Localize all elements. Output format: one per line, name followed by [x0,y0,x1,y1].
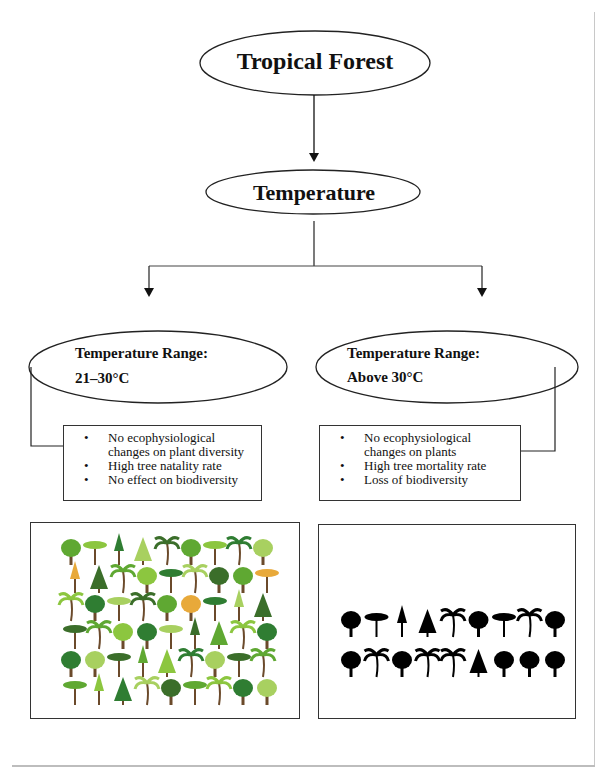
tree-icon [231,622,255,649]
tree-icon [114,533,124,565]
tree-icon [470,649,488,677]
tree-icon [494,651,514,677]
tree-icon [205,651,225,677]
tree-icon [70,561,80,593]
tree-icon [134,537,152,565]
tree-icon [87,622,111,649]
tree-icon [61,539,81,565]
tree-icon [257,623,277,649]
arrowhead-icon [309,153,319,162]
range-heading-right: Temperature Range: [347,345,480,362]
tree-icon [341,651,361,677]
tree-icon [469,611,489,637]
tree-icon [227,538,251,565]
tree-icon [227,653,251,677]
colorful-tree-collection-icon [31,523,299,718]
tree-icon [85,651,105,677]
effect-item: No effect on biodiversity [108,473,255,487]
tree-icon [365,650,389,677]
tree-icon [63,681,87,705]
effects-box-left: No ecophysiological changes on plant div… [63,425,262,501]
tree-icon [234,589,244,621]
tree-icon [545,651,565,677]
tree-icon [181,595,201,621]
tree-icon [233,679,253,705]
effects-list-right: No ecophysiological changes on plants Hi… [326,431,514,487]
tree-icon [397,605,407,637]
tree-icon [83,541,107,565]
tree-icon [158,649,176,677]
tree-icon [94,673,104,705]
tree-icon [63,625,87,649]
tree-icon [520,651,540,677]
tree-icon [161,679,181,705]
tree-icon [210,621,228,649]
dead-forest-illustration [318,524,576,719]
range-heading-left: Temperature Range: [75,345,208,362]
range-ellipse-right [316,331,578,403]
effect-item: High tree mortality rate [364,459,514,473]
tree-icon [253,539,273,565]
tree-icon [416,650,440,677]
tree-icon [183,566,207,593]
tree-icon [107,597,131,621]
tree-icon [114,677,132,705]
tree-icon [255,569,279,593]
tree-icon [207,678,231,705]
tree-icon [341,611,361,637]
tree-icon [59,594,83,621]
tree-icon [257,679,277,705]
tree-icon [159,625,183,649]
tree-icon [545,611,565,637]
tree-icon [233,567,253,593]
tree-icon [254,593,272,621]
healthy-forest-illustration [30,522,300,719]
tree-icon [138,645,148,677]
tree-icon [209,567,229,593]
tree-icon [251,650,275,677]
tree-icon [135,678,159,705]
effect-item: High tree natality rate [108,459,255,473]
effects-box-right: No ecophysiological changes on plants Hi… [319,425,521,501]
tree-icon [492,613,516,637]
tree-icon [203,541,227,565]
tree-icon [157,595,177,621]
tree-icon [131,594,155,621]
tree-icon [107,653,131,677]
tree-icon [392,651,412,677]
range-value-right: Above 30°C [347,369,423,386]
tree-icon [111,566,135,593]
tree-icon [137,623,157,649]
effect-item: Loss of biodiversity [364,473,514,487]
tree-icon [419,609,437,637]
effect-item: No ecophysiological changes on plants [364,431,514,459]
tree-icon [155,538,179,565]
arrowhead-left-icon [144,288,154,297]
root-node-label: Tropical Forest [236,48,394,75]
tree-icon [365,613,389,637]
tree-icon [181,539,201,565]
effects-list-left: No ecophysiological changes on plant div… [70,431,255,487]
temperature-node-label: Temperature [250,180,378,206]
arrowhead-right-icon [477,288,487,297]
effect-item: No ecophysiological changes on plant div… [108,431,255,459]
tree-icon [183,681,207,705]
tree-icon [137,567,157,593]
tree-icon [203,597,227,621]
range-value-left: 21–30°C [75,370,129,387]
tree-icon [441,650,465,677]
tree-icon [90,565,108,593]
tree-silhouette-collection-icon [319,525,575,718]
tree-icon [113,623,133,649]
tree-icon [441,610,465,637]
tree-icon [61,651,81,677]
tree-icon [518,610,542,637]
tree-icon [190,617,200,649]
tree-icon [179,650,203,677]
tree-icon [159,569,183,593]
tree-icon [85,595,105,621]
range-ellipse-left [29,331,287,403]
